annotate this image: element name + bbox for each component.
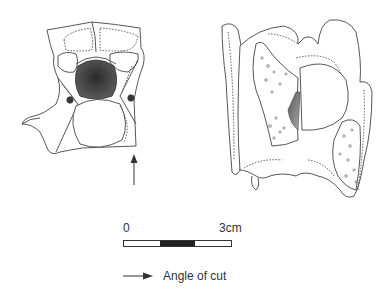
left-vertebra-view: [22, 22, 144, 154]
right-vertebra-view: [222, 20, 372, 197]
cut-direction-arrow: [131, 154, 138, 185]
scale-bar: [123, 240, 232, 247]
legend: Angle of cut: [123, 269, 226, 283]
right-arrow-icon: [123, 271, 153, 281]
vertebra-illustrations: [0, 0, 389, 295]
scale-segment-1: [124, 241, 160, 246]
scale-segment-3: [195, 241, 231, 246]
scale-segment-2: [160, 241, 196, 246]
scale-label-start: 0: [123, 222, 130, 234]
scale-label-end: 3cm: [219, 222, 242, 234]
legend-label: Angle of cut: [163, 269, 226, 283]
